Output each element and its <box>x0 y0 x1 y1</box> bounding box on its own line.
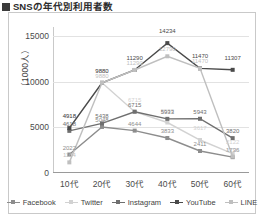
legend-item[interactable]: Instagram <box>112 198 161 207</box>
y-axis-tick-label: 5000 <box>30 122 49 132</box>
data-point-label: 3833 <box>161 128 174 134</box>
legend-marker-icon <box>225 199 238 206</box>
data-point-label: 5933 <box>161 109 174 115</box>
chart-legend: FacebookTwitterInstagramYouTubeLINE <box>9 198 255 207</box>
data-point <box>198 66 202 70</box>
x-axis-tick-label: 50代 <box>191 177 209 189</box>
legend-label: Instagram <box>128 198 161 207</box>
series-line <box>69 127 232 157</box>
data-point <box>100 125 104 129</box>
data-point-label: 14234 <box>159 28 176 34</box>
x-axis-tick-label: 60代 <box>223 177 241 189</box>
data-point <box>165 54 169 58</box>
page-title: SNSの年代別利用者数 <box>13 2 113 11</box>
data-point-label: 2411 <box>194 141 207 147</box>
data-point-label: 5438 <box>95 113 108 119</box>
data-point-label: 1164 <box>63 152 76 158</box>
chart-frame: （1000人） 050001000015000 10代20代30代40代50代6… <box>8 12 256 214</box>
data-point <box>165 136 169 140</box>
legend-label: LINE <box>241 198 258 207</box>
data-point <box>165 121 169 125</box>
series-lines <box>53 27 249 173</box>
data-point <box>133 129 137 133</box>
data-point <box>198 149 202 153</box>
chart-page: SNSの年代別利用者数 （1000人） 050001000015000 10代2… <box>0 0 264 221</box>
series-line <box>69 56 232 162</box>
data-point-label: 11290 <box>127 60 143 66</box>
y-axis-tick-label: 0 <box>44 168 49 178</box>
legend-marker-icon <box>65 199 78 206</box>
page-heading: SNSの年代別利用者数 <box>0 0 264 11</box>
data-point-label: 11470 <box>192 58 208 64</box>
data-point-label: 4618 <box>63 121 76 127</box>
x-axis-tick-label: 40代 <box>158 177 176 189</box>
x-axis-tick-label: 10代 <box>60 177 78 189</box>
data-point-label: 5943 <box>193 109 206 115</box>
data-point <box>165 117 169 121</box>
data-point <box>165 41 169 45</box>
data-point <box>198 117 202 121</box>
data-point-label: 2022 <box>63 145 76 151</box>
legend-marker-icon <box>7 199 20 206</box>
data-point <box>67 160 71 164</box>
legend-item[interactable]: Twitter <box>65 198 103 207</box>
data-point-label: 3820 <box>226 128 239 134</box>
data-point-label: 3617 <box>193 125 206 131</box>
data-point <box>133 68 137 72</box>
data-point <box>231 155 235 159</box>
square-bullet-icon <box>2 3 10 11</box>
legend-label: Facebook <box>23 198 56 207</box>
data-point-label: 6715 <box>128 102 141 108</box>
legend-item[interactable]: Facebook <box>7 198 56 207</box>
data-point-label: 1796 <box>226 147 239 153</box>
data-point <box>231 68 235 72</box>
data-point-label: 12790 <box>159 46 176 52</box>
data-point <box>100 81 104 85</box>
data-point-label: 11307 <box>225 55 241 61</box>
x-axis-tick-label: 30代 <box>125 177 143 189</box>
data-point-label: 4644 <box>128 121 141 127</box>
x-axis-tick-label: 20代 <box>93 177 111 189</box>
data-point-label: 9880 <box>95 73 108 79</box>
legend-marker-icon <box>112 199 125 206</box>
legend-marker-icon <box>170 199 183 206</box>
data-point-label: 4918 <box>63 113 76 119</box>
legend-label: YouTube <box>186 198 215 207</box>
plot-area: 050001000015000 10代20代30代40代50代60代 20225… <box>53 27 249 173</box>
data-point <box>133 110 137 114</box>
data-point-label: 2122 <box>226 139 239 145</box>
legend-item[interactable]: YouTube <box>170 198 215 207</box>
legend-label: Twitter <box>81 198 103 207</box>
y-axis-tick-label: 15000 <box>25 31 49 41</box>
y-axis-tick-label: 10000 <box>25 77 49 87</box>
legend-item[interactable]: LINE <box>225 198 258 207</box>
